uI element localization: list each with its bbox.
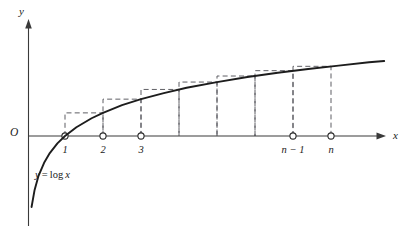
rectangle-6-7 — [255, 71, 293, 136]
origin-label: O — [10, 127, 18, 139]
equation-function: log — [50, 169, 63, 180]
x-axis-label: x — [393, 130, 398, 141]
rectangle-3-4 — [141, 89, 179, 136]
tick-label-n-minus-1: n − 1 — [278, 145, 308, 156]
y-axis-arrowhead — [25, 19, 32, 29]
circumscribed-rectangles — [65, 66, 331, 136]
tick-label-1: 1 — [60, 145, 70, 156]
tick-label-n: n — [326, 145, 337, 156]
tick-marker-3 — [138, 133, 144, 139]
x-axis-arrowhead — [377, 133, 387, 140]
y-axis-label: y — [19, 6, 24, 17]
tick-label-2: 2 — [98, 145, 108, 156]
tick-marker-n — [328, 133, 334, 139]
tick-label-3: 3 — [136, 145, 146, 156]
log-riemann-figure: y x O 1 2 3 n − 1 n y = log x — [0, 0, 410, 235]
y-axis — [25, 19, 32, 226]
equation-argument: x — [65, 169, 70, 180]
rectangle-5-6 — [217, 76, 255, 136]
figure-canvas — [0, 0, 410, 235]
rectangle-7-8 — [293, 66, 331, 136]
curve-equation-label: y = log x — [35, 170, 70, 181]
rectangle-4-5 — [179, 82, 217, 136]
tick-marker-n1 — [290, 133, 296, 139]
tick-marker-2 — [100, 133, 106, 139]
